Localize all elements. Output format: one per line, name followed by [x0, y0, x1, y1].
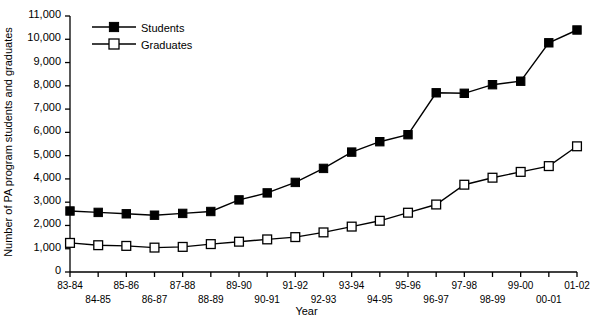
chart-plot-area [0, 0, 597, 327]
chart-container: Number of PA program students and gradua… [0, 0, 597, 327]
